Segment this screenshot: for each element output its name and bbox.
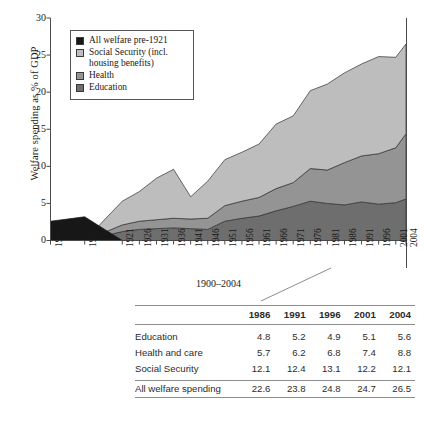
table-col-header-1996: 1996	[310, 306, 345, 325]
table-cell-social-security-2004: 12.1	[380, 360, 415, 376]
table-cell-social-security-2001: 12.2	[345, 360, 380, 376]
table-row-label-all-welfare-spending: All welfare spending	[135, 380, 239, 397]
table-col-header-2004: 2004	[380, 306, 415, 325]
table-cell-total-1986: 22.6	[239, 380, 274, 397]
table-total-row: All welfare spending 22.6 23.8 24.8 24.7…	[135, 380, 415, 397]
table-cell-social-security-1986: 12.1	[239, 360, 274, 376]
table-col-header-2001: 2001	[345, 306, 380, 325]
table-cell-total-1996: 24.8	[310, 380, 345, 397]
data-table-block: 1986 1991 1996 2001 2004 Education 4.8 5…	[135, 305, 415, 403]
table-cell-health-2004: 8.8	[380, 344, 415, 360]
table-cell-education-1986: 4.8	[239, 328, 274, 344]
table-row: Education 4.8 5.2 4.9 5.1 5.6	[135, 328, 415, 344]
figure-root: Welfare spending as % of GDP 05101520253…	[0, 0, 424, 426]
table-row: Health and care 5.7 6.2 6.8 7.4 8.8	[135, 344, 415, 360]
table-cell-total-1991: 23.8	[274, 380, 309, 397]
table-cell-education-1991: 5.2	[274, 328, 309, 344]
table-col-header-1986: 1986	[239, 306, 274, 325]
table-col-header-1991: 1991	[274, 306, 309, 325]
welfare-spending-table: 1986 1991 1996 2001 2004 Education 4.8 5…	[135, 305, 415, 403]
table-bottom-rule	[135, 397, 415, 403]
table-row: Social Security 12.1 12.4 13.1 12.2 12.1	[135, 360, 415, 376]
table-cell-education-2004: 5.6	[380, 328, 415, 344]
table-cell-total-2001: 24.7	[345, 380, 380, 397]
table-cell-total-2004: 26.5	[380, 380, 415, 397]
table-cell-health-1996: 6.8	[310, 344, 345, 360]
table-row-label-health-and-care: Health and care	[135, 344, 239, 360]
table-cell-health-2001: 7.4	[345, 344, 380, 360]
table-cell-health-1991: 6.2	[274, 344, 309, 360]
table-cell-social-security-1996: 13.1	[310, 360, 345, 376]
table-bottom-rule-row	[135, 397, 415, 403]
chart-caption: 1900–2004	[196, 278, 241, 289]
table-cell-education-2001: 5.1	[345, 328, 380, 344]
table-cell-health-1986: 5.7	[239, 344, 274, 360]
table-row-label-education: Education	[135, 328, 239, 344]
table-cell-social-security-1991: 12.4	[274, 360, 309, 376]
table-header-row: 1986 1991 1996 2001 2004	[135, 306, 415, 325]
table-cell-education-1996: 4.9	[310, 328, 345, 344]
table-corner-cell	[135, 306, 239, 325]
table-row-label-social-security: Social Security	[135, 360, 239, 376]
